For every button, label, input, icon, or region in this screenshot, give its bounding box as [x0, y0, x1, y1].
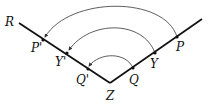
label-y-prime: Y' [55, 55, 66, 69]
label-z: Z [105, 89, 115, 103]
label-p: P [175, 40, 185, 54]
point-y [153, 51, 156, 54]
point-p [175, 35, 178, 38]
arc-q-to-q-prime [89, 56, 133, 68]
angle-copy-diagram: R P' Y' Q' Z Q Y P [0, 0, 211, 104]
label-y: Y [150, 57, 159, 71]
label-q: Q [129, 73, 139, 87]
arc-p-to-p-prime [45, 6, 177, 37]
label-r: R [4, 15, 14, 29]
label-q-prime: Q' [76, 73, 89, 87]
label-p-prime: P' [30, 41, 42, 55]
point-q-prime [86, 67, 89, 70]
point-q [131, 66, 134, 69]
arc-y-to-y-prime [69, 28, 155, 53]
